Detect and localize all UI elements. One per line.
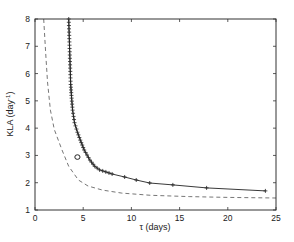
y-tick-label: 5	[25, 96, 30, 106]
x-axis-label: τ (days)	[139, 222, 170, 232]
plus-marker	[73, 124, 77, 128]
plus-marker	[77, 136, 81, 140]
plus-marker	[71, 108, 75, 112]
annotations	[75, 155, 80, 160]
y-tick-label: 7	[25, 41, 30, 51]
plus-marker	[81, 146, 85, 150]
plus-marker	[75, 130, 79, 134]
plus-marker	[80, 143, 84, 147]
y-axis-label-main: KLA (day	[5, 99, 15, 136]
plus-marker	[76, 133, 80, 137]
dashed-curve	[44, 19, 276, 198]
plus-marker	[74, 127, 78, 131]
plus-marker	[263, 189, 267, 193]
plus-marker	[73, 121, 77, 125]
y-axis-label-end: )	[5, 92, 15, 95]
plus-marker	[171, 183, 175, 187]
q-point-marker	[75, 155, 80, 160]
plus-marker	[72, 118, 76, 122]
plus-marker	[79, 141, 83, 145]
y-axis-label: KLA (day-1)	[5, 92, 15, 137]
x-tick-label: 15	[175, 213, 185, 223]
y-tick-label: 2	[25, 178, 30, 188]
x-tick-label: 25	[271, 213, 281, 223]
plus-marker	[123, 175, 127, 179]
x-tick-label: 0	[33, 213, 38, 223]
chart: 0510152025 12345678 τ (days) KLA (day-1)	[0, 0, 294, 242]
plot-area	[44, 17, 276, 198]
plus-marker	[134, 178, 138, 182]
marked-curve	[69, 19, 266, 191]
x-tick-label: 20	[223, 213, 233, 223]
plus-markers	[67, 17, 268, 193]
y-tick-label: 8	[25, 14, 30, 24]
y-tick-label: 6	[25, 69, 30, 79]
y-tick-label: 4	[25, 123, 30, 133]
x-tick-label: 10	[127, 213, 137, 223]
x-tick-label: 5	[81, 213, 86, 223]
y-tick-label: 3	[25, 150, 30, 160]
y-tick-labels: 12345678	[25, 14, 30, 215]
plus-marker	[71, 111, 75, 115]
axis-ticks	[35, 19, 276, 210]
plus-marker	[78, 138, 82, 142]
axes-frame	[35, 19, 276, 210]
y-tick-label: 1	[25, 205, 30, 215]
plus-marker	[72, 114, 76, 118]
plus-marker	[148, 181, 152, 185]
plus-marker	[205, 186, 209, 190]
